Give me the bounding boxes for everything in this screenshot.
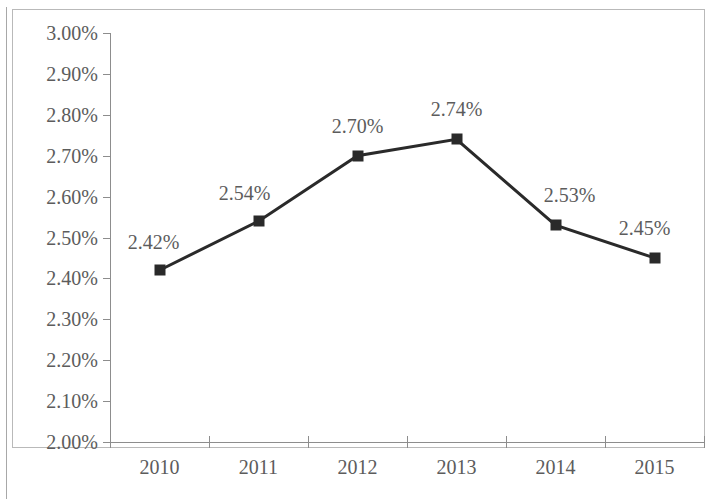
data-point-marker (550, 220, 561, 231)
y-axis-tick (103, 156, 111, 157)
y-axis-tick-label: 3.00% (0, 23, 98, 43)
data-point-label: 2.54% (219, 183, 271, 203)
x-axis-tick (110, 436, 111, 448)
y-axis-tick-label-text: 3.00% (6, 23, 98, 43)
y-axis-tick (103, 115, 111, 116)
line-chart-plot: 3.00%2.90%2.80%2.70%2.60%2.50%2.40%2.30%… (0, 0, 726, 499)
y-axis-tick-label: 2.60% (0, 187, 98, 207)
y-axis-tick (103, 74, 111, 75)
y-axis-tick (103, 278, 111, 279)
y-axis-tick-label: 2.50% (0, 228, 98, 248)
y-axis-tick (103, 197, 111, 198)
x-axis-tick-label: 2015 (605, 455, 704, 479)
data-point-marker (154, 265, 165, 276)
x-axis-tick (407, 436, 408, 448)
y-axis-tick-label-text: 2.90% (6, 64, 98, 84)
y-axis-tick-label-text: 2.60% (6, 187, 98, 207)
y-axis-tick-label-text: 2.50% (6, 228, 98, 248)
x-axis-tick-label: 2011 (209, 455, 308, 479)
y-axis-tick-label-text: 2.70% (6, 146, 98, 166)
data-point-label: 2.70% (332, 116, 384, 136)
data-point-marker (649, 252, 660, 263)
y-axis-tick (103, 319, 111, 320)
y-axis-tick-label: 2.30% (0, 309, 98, 329)
data-point-label: 2.45% (619, 218, 671, 238)
x-axis-tick (308, 436, 309, 448)
y-axis-tick (103, 401, 111, 402)
y-axis-tick-label: 2.70% (0, 146, 98, 166)
data-point-label: 2.53% (544, 185, 596, 205)
y-axis-tick-label-text: 2.30% (6, 309, 98, 329)
y-axis-tick (103, 360, 111, 361)
data-point-label: 2.42% (128, 232, 180, 252)
x-axis-tick-label: 2010 (110, 455, 209, 479)
x-axis-tick (704, 436, 705, 448)
data-point-marker (451, 134, 462, 145)
data-point-marker (253, 216, 264, 227)
data-point-label: 2.74% (431, 99, 483, 119)
y-axis-tick-label: 2.00% (0, 432, 98, 452)
y-axis-tick-label: 2.80% (0, 105, 98, 125)
x-axis-tick-label: 2013 (407, 455, 506, 479)
x-axis-tick (209, 436, 210, 448)
y-axis-tick-label-text: 2.40% (6, 268, 98, 288)
y-axis-tick-label: 2.40% (0, 268, 98, 288)
data-point-marker (352, 150, 363, 161)
x-axis-tick (605, 436, 606, 448)
y-axis-tick-label: 2.90% (0, 64, 98, 84)
y-axis-tick (103, 238, 111, 239)
y-axis-tick (103, 33, 111, 34)
y-axis-tick-label-text: 2.20% (6, 350, 98, 370)
y-axis-tick-label-text: 2.10% (6, 391, 98, 411)
y-axis-tick-label: 2.20% (0, 350, 98, 370)
y-axis-tick-label-text: 2.00% (6, 432, 98, 452)
y-axis-tick-label: 2.10% (0, 391, 98, 411)
y-axis-tick-label-text: 2.80% (6, 105, 98, 125)
x-axis-tick-label: 2012 (308, 455, 407, 479)
x-axis-tick (506, 436, 507, 448)
scanned-page: 3.00%2.90%2.80%2.70%2.60%2.50%2.40%2.30%… (0, 0, 726, 499)
x-axis-tick-label: 2014 (506, 455, 605, 479)
